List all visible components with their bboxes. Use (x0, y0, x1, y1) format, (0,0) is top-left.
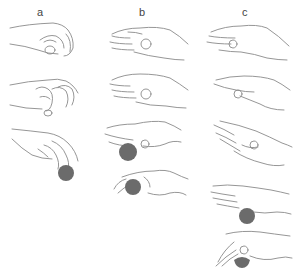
hand-c3-palm-open-icon (210, 115, 295, 170)
hand-c1-flat-extended-icon (205, 22, 295, 62)
column-label-a: a (37, 6, 43, 18)
column-label-b: b (139, 6, 145, 18)
ball-c4 (239, 208, 255, 224)
hand-a3-ball-grip-icon (8, 125, 88, 185)
hand-b2-flat-relaxed-icon (108, 70, 193, 110)
column-label-c: c (242, 6, 248, 18)
hand-b3-ball-under-icon (103, 118, 193, 163)
ball-b3 (119, 143, 137, 161)
ball-b4 (125, 179, 141, 195)
hand-a1-pinch-icon (8, 20, 88, 65)
ball-c5 (234, 257, 250, 268)
hand-b1-flat-thumb-tucked-icon (108, 22, 193, 62)
hand-c2-flat-side-icon (210, 70, 295, 115)
hand-c5-grip-ball-icon (212, 228, 297, 270)
ball-a3 (58, 165, 74, 181)
hand-c4-ball-under-icon (207, 180, 295, 225)
hand-b4-cupped-ball-icon (108, 165, 193, 205)
hand-a2-claw-icon (8, 75, 88, 120)
